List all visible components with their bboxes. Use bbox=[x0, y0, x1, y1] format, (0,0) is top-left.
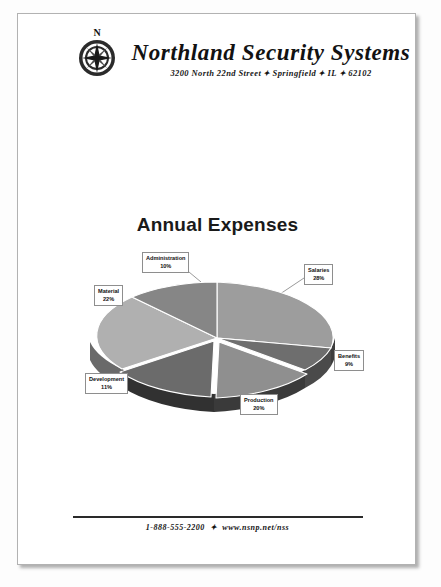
footer-separator: ✦ bbox=[205, 523, 223, 532]
footer-divider bbox=[73, 516, 363, 518]
letterhead: N N bbox=[18, 22, 417, 100]
company-address: 3200 North 22nd Street✦Springfield✦IL✦62… bbox=[126, 68, 416, 78]
pie-label-benefits-name: Benefits bbox=[338, 353, 360, 359]
footer-website: www.nsnp.net/nss bbox=[222, 523, 289, 532]
pie-label-administration: Administration 10% bbox=[142, 252, 189, 273]
pie-label-benefits: Benefits 9% bbox=[334, 350, 364, 371]
pie-chart-svg bbox=[18, 242, 417, 452]
pie-label-administration-value: 10% bbox=[146, 263, 185, 271]
document-page: N N bbox=[17, 13, 416, 565]
address-city: Springfield bbox=[273, 68, 317, 78]
pie-label-material-name: Material bbox=[98, 288, 119, 294]
pie-chart-graphic: Administration 10% Salaries 28% Material… bbox=[18, 242, 417, 452]
address-zip: 62102 bbox=[348, 68, 371, 78]
pie-label-salaries-value: 28% bbox=[308, 275, 329, 283]
address-separator-1: ✦ bbox=[261, 69, 272, 78]
address-separator-3: ✦ bbox=[337, 69, 348, 78]
pie-label-production-name: Production bbox=[244, 397, 274, 403]
address-street: 3200 North 22nd Street bbox=[170, 68, 261, 78]
pie-label-salaries-name: Salaries bbox=[308, 267, 329, 273]
company-name: Northland Security Systems bbox=[126, 40, 416, 66]
pie-label-salaries: Salaries 28% bbox=[304, 264, 333, 285]
screenshot-canvas: N N bbox=[0, 0, 441, 587]
pie-label-material-value: 22% bbox=[98, 296, 119, 304]
pie-label-production: Production 20% bbox=[240, 394, 278, 415]
pie-label-development: Development 11% bbox=[85, 373, 128, 394]
pie-label-administration-name: Administration bbox=[146, 255, 185, 261]
footer-contact: 1-888-555-2200✦www.nsnp.net/nss bbox=[18, 523, 417, 532]
page-footer: 1-888-555-2200✦www.nsnp.net/nss bbox=[18, 516, 417, 546]
compass-north-label: N bbox=[66, 28, 128, 38]
annual-expenses-chart: Annual Expenses bbox=[18, 204, 417, 454]
pie-label-material: Material 22% bbox=[94, 285, 123, 306]
company-logo: N bbox=[66, 28, 128, 90]
footer-phone: 1-888-555-2200 bbox=[146, 523, 205, 532]
address-state: IL bbox=[328, 68, 337, 78]
pie-label-development-name: Development bbox=[89, 376, 124, 382]
pie-label-production-value: 20% bbox=[244, 405, 274, 413]
pie-slice-salaries bbox=[217, 282, 333, 348]
compass-rose-icon bbox=[78, 39, 116, 77]
chart-title: Annual Expenses bbox=[18, 214, 417, 236]
pie-label-benefits-value: 9% bbox=[338, 361, 360, 369]
address-separator-2: ✦ bbox=[316, 69, 327, 78]
pie-label-development-value: 11% bbox=[89, 384, 124, 392]
